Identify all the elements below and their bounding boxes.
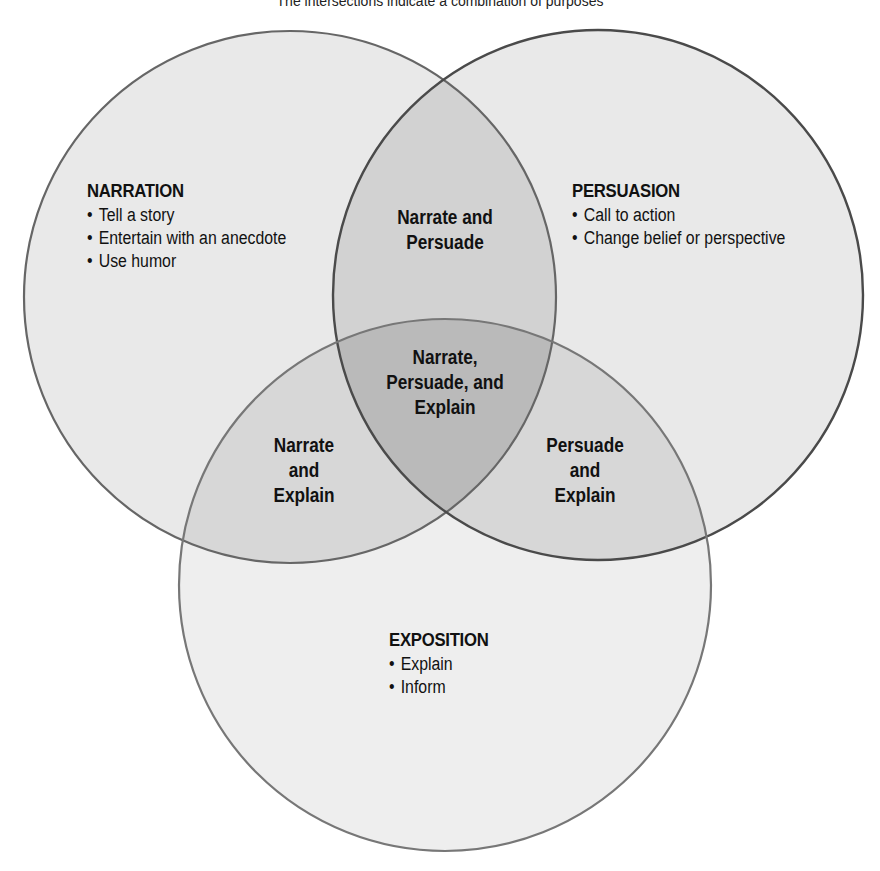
list-item: Explain bbox=[389, 653, 489, 676]
narration-list: Tell a story Entertain with an anecdote … bbox=[87, 204, 286, 273]
persuasion-title: PERSUASION bbox=[572, 180, 785, 202]
narrate-persuade-label: Narrate and Persuade bbox=[359, 205, 531, 255]
narration-title: NARRATION bbox=[87, 180, 286, 202]
all-three-label: Narrate, Persuade, and Explain bbox=[359, 345, 531, 420]
list-item: Entertain with an anecdote bbox=[87, 227, 286, 250]
narration-label-group: NARRATION Tell a story Entertain with an… bbox=[87, 180, 313, 273]
exposition-label-group: EXPOSITION Explain Inform bbox=[389, 629, 502, 699]
list-item: Use humor bbox=[87, 250, 286, 273]
exposition-list: Explain Inform bbox=[389, 653, 489, 699]
list-item: Inform bbox=[389, 676, 489, 699]
venn-diagram bbox=[0, 0, 880, 871]
persuade-explain-label: Persuade and Explain bbox=[529, 433, 641, 508]
persuasion-list: Call to action Change belief or perspect… bbox=[572, 204, 785, 250]
list-item: Change belief or perspective bbox=[572, 227, 785, 250]
list-item: Call to action bbox=[572, 204, 785, 227]
persuasion-label-group: PERSUASION Call to action Change belief … bbox=[572, 180, 814, 250]
exposition-title: EXPOSITION bbox=[389, 629, 489, 651]
narrate-explain-label: Narrate and Explain bbox=[252, 433, 355, 508]
list-item: Tell a story bbox=[87, 204, 286, 227]
